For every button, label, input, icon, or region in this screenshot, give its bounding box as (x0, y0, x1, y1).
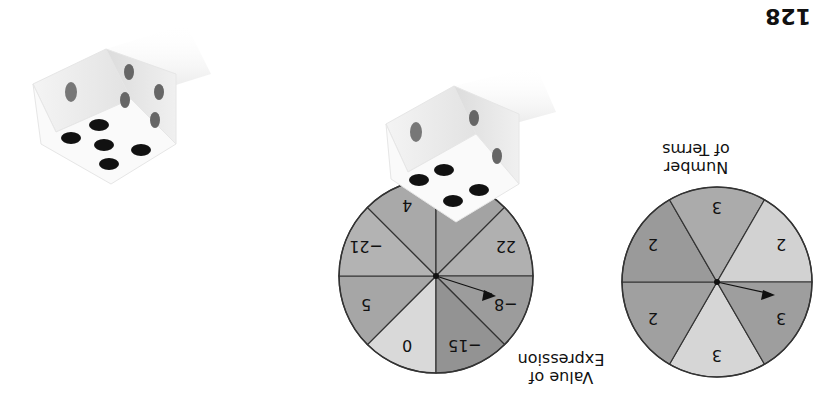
die-one (33, 24, 211, 184)
sector-label: 5 (361, 295, 371, 314)
sector-label: 2 (648, 235, 658, 254)
sector-label: −8 (494, 295, 518, 314)
caption-number-line2: of Terms (662, 140, 730, 159)
sector-label: −15 (448, 336, 482, 355)
sector-label: 4 (402, 196, 412, 215)
sector-label: 3 (712, 346, 722, 365)
page-canvas: 128 322323 Number of Terms 05−214−122−8−… (0, 0, 821, 394)
caption-value-line2: Expression (518, 350, 605, 369)
sector-label: 22 (496, 237, 516, 256)
sector-label: 3 (776, 309, 786, 328)
page-number: 128 (765, 4, 811, 29)
sector-label: 0 (402, 336, 412, 355)
textbook-page: 128 322323 Number of Terms 05−214−122−8−… (0, 0, 821, 394)
spinner-number-of-terms: 322323 (622, 187, 812, 377)
sector-label: −21 (349, 237, 383, 256)
caption-number-line1: Number (663, 158, 728, 177)
sector-label: 2 (648, 309, 658, 328)
caption-value-line1: Value of (528, 368, 593, 387)
sector-label: 3 (712, 198, 722, 217)
sector-label: 2 (776, 235, 786, 254)
